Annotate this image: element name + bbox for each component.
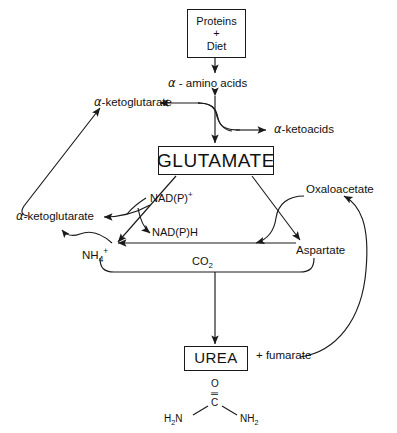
urea-cycle-diagram: Proteins + Diet GLUTAMATE UREA α - amino…: [0, 0, 397, 433]
ketoglutarate-top-label: α-ketoglutarate: [94, 97, 172, 109]
aspartate-label: Aspartate: [296, 245, 345, 257]
left-amine-n: N: [175, 413, 182, 424]
oxaloacetate-text: Oxaloacetate: [306, 183, 374, 195]
amino-acids-text: - amino acids: [176, 77, 248, 89]
nadp-plus-label: NAD(P)+: [150, 191, 193, 204]
urea-carbon-label: C: [211, 398, 218, 408]
alpha-symbol: α: [168, 76, 176, 90]
double-bond-text: ‖: [209, 392, 219, 396]
urea-box: UREA: [184, 346, 248, 371]
oxygen-text: O: [211, 378, 219, 389]
ketoacids-text: -ketoacids: [282, 123, 334, 135]
urea-label: UREA: [194, 350, 238, 367]
proteins-diet-box: Proteins + Diet: [187, 9, 246, 58]
urea-structure: O ‖ C H2N NH2: [160, 381, 270, 429]
urea-left-amine-label: H2N: [164, 414, 182, 426]
plus-sign: +: [213, 27, 219, 39]
fumarate-text: + fumarate: [256, 349, 311, 361]
alpha-symbol: α: [94, 95, 102, 109]
nadph-text: NAD(P)H: [152, 226, 198, 238]
nadp-text: NAD(P): [150, 192, 188, 204]
nadph-label: NAD(P)H: [152, 227, 198, 238]
ketoacids-label: α-ketoacids: [274, 124, 334, 136]
co2-label: CO2: [192, 256, 213, 270]
co2-text: CO: [192, 255, 209, 267]
amino-acids-label: α - amino acids: [168, 78, 247, 90]
carbon-text: C: [211, 397, 218, 408]
ketoglutarate-left-label: α-ketoglutarate: [16, 211, 94, 223]
alpha-symbol: α: [274, 122, 282, 136]
urea-double-bond: ‖: [209, 392, 218, 396]
glutamate-label: GLUTAMATE: [157, 150, 275, 171]
ammonium-label: NH4+: [82, 248, 108, 264]
ammonium-text: NH: [82, 249, 99, 261]
urea-oxygen-label: O: [211, 379, 219, 389]
glutamate-box: GLUTAMATE: [158, 146, 274, 175]
right-amine-subscript: 2: [254, 418, 258, 427]
alpha-symbol: α: [16, 209, 24, 223]
proteins-label: Proteins: [196, 15, 236, 27]
urea-right-amine-label: NH2: [240, 414, 258, 426]
ketoglutarate-top-text: -ketoglutarate: [102, 96, 172, 108]
aspartate-text: Aspartate: [296, 244, 345, 256]
right-amine-text: NH: [240, 413, 254, 424]
co2-subscript: 2: [209, 261, 213, 270]
ketoglutarate-left-text: -ketoglutarate: [24, 210, 94, 222]
ammonium-subscript: 4: [99, 255, 104, 264]
diet-label: Diet: [207, 40, 227, 52]
oxaloacetate-label: Oxaloacetate: [306, 184, 374, 196]
fumarate-label: + fumarate: [256, 350, 311, 362]
ammonium-superscript: +: [103, 247, 108, 256]
nadp-superscript: +: [188, 190, 193, 199]
